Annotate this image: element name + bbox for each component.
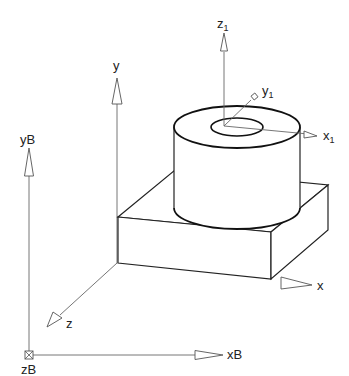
z1-arrow-icon	[221, 33, 228, 51]
z-label: z	[66, 316, 73, 331]
z-arrow-icon	[47, 312, 62, 327]
yB-arrow-icon	[25, 148, 34, 176]
x1-arrow-icon	[304, 131, 317, 138]
y1-label: y1	[262, 83, 274, 100]
x1-label: x1	[323, 128, 335, 145]
diagram-canvas: yB xB zB y z x	[0, 0, 349, 376]
z1-label: z1	[217, 16, 229, 33]
x-arrow-icon	[281, 277, 312, 289]
y1-arrow-icon	[251, 93, 258, 100]
cylinder	[174, 106, 300, 229]
xB-label: xB	[227, 347, 242, 362]
x-label: x	[317, 278, 324, 293]
z-axis-line	[60, 263, 117, 315]
yB-label: yB	[20, 132, 35, 147]
y-label: y	[113, 58, 120, 73]
y-arrow-icon	[112, 78, 122, 104]
zB-label: zB	[21, 362, 36, 376]
zB-out-of-plane-icon	[25, 351, 33, 359]
xB-arrow-icon	[195, 351, 223, 360]
